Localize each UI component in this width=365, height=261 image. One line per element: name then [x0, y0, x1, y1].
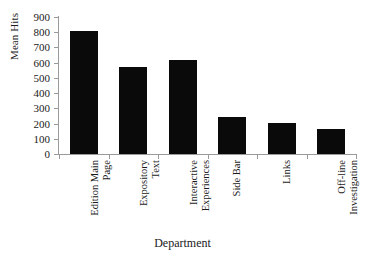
y-axis-tick-label: 200	[0, 118, 50, 130]
bar	[70, 31, 98, 154]
category-label-line: Links	[281, 160, 293, 238]
y-axis-tick-label: 500	[0, 72, 50, 84]
bar-chart: Mean Hits Department 9008007006005004003…	[0, 0, 365, 261]
y-axis-tick	[54, 108, 58, 109]
x-axis-tick	[208, 155, 209, 159]
y-axis-tick-label: 700	[0, 41, 50, 53]
y-axis-tick	[54, 93, 58, 94]
category-label-line: Expository	[138, 160, 150, 238]
category-label-line: Experiences	[199, 160, 211, 238]
x-axis-tick	[257, 155, 258, 159]
y-axis-tick-label: 800	[0, 26, 50, 38]
category-label-line: Page	[100, 160, 112, 238]
bar	[169, 60, 197, 154]
y-axis-tick	[54, 139, 58, 140]
y-axis-tick-label: 900	[0, 11, 50, 23]
y-axis-tick-label: 0	[0, 148, 50, 160]
y-axis-tick-label: 300	[0, 102, 50, 114]
x-axis-tick	[109, 155, 110, 159]
y-axis-tick	[54, 63, 58, 64]
bar	[317, 129, 345, 154]
x-axis-tick	[356, 155, 357, 159]
bar	[268, 123, 296, 154]
category-label-line: Edition Main	[89, 160, 101, 238]
y-axis-tick-label: 600	[0, 57, 50, 69]
bar	[218, 117, 246, 154]
category-label-line: Interactive	[188, 160, 200, 238]
y-axis-tick	[54, 154, 58, 155]
x-axis-tick	[307, 155, 308, 159]
x-axis-tick	[158, 155, 159, 159]
x-axis-title: Department	[0, 236, 365, 251]
category-label-line: Text	[150, 160, 162, 238]
category-label-line: Side Bar	[231, 160, 243, 238]
y-axis-tick	[54, 17, 58, 18]
bar	[119, 67, 147, 154]
y-axis-tick	[54, 78, 58, 79]
plot-area	[59, 17, 356, 154]
y-axis-tick	[54, 47, 58, 48]
x-axis-tick	[59, 155, 60, 159]
category-label-line: Investigation	[348, 160, 360, 238]
category-label-line: Off-line	[336, 160, 348, 238]
y-axis-tick-label: 100	[0, 133, 50, 145]
y-axis-tick	[54, 32, 58, 33]
y-axis-tick-label: 400	[0, 87, 50, 99]
y-axis-tick	[54, 124, 58, 125]
